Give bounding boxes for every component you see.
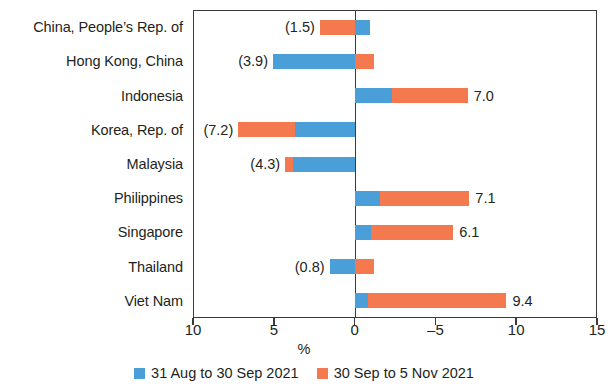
bar-row xyxy=(193,122,597,137)
legend-swatch-icon xyxy=(134,368,145,379)
x-axis-tick-label: 0 xyxy=(350,320,358,340)
bar-segment xyxy=(368,293,507,308)
bar-value-label: 9.4 xyxy=(513,294,533,309)
bar-segment xyxy=(293,157,354,172)
y-axis-label: Viet Nam xyxy=(124,294,183,308)
bar-row xyxy=(193,293,597,308)
legend-label: 30 Sep to 5 Nov 2021 xyxy=(334,366,474,380)
bar-chart: China, People’s Rep. ofHong Kong, ChinaI… xyxy=(0,0,608,392)
bar-segment xyxy=(392,88,468,103)
bar-segment xyxy=(380,191,469,206)
legend-item[interactable]: 31 Aug to 30 Sep 2021 xyxy=(134,366,299,380)
bar-row xyxy=(193,225,597,240)
x-axis-tick-label: 5 xyxy=(270,320,278,340)
bar-value-label: 7.1 xyxy=(475,191,495,206)
x-axis-title: % xyxy=(0,341,608,357)
bar-value-label: (4.3) xyxy=(250,157,280,172)
bar-segment xyxy=(320,20,355,35)
bar-segment xyxy=(371,225,453,240)
bar-segment xyxy=(295,122,355,137)
bar-value-label: (0.8) xyxy=(295,260,325,275)
bar-segment xyxy=(238,122,295,137)
y-axis-label: China, People’s Rep. of xyxy=(33,20,183,34)
bar-value-label: (7.2) xyxy=(203,123,233,138)
bar-value-label: (1.5) xyxy=(285,20,315,35)
bar-value-label: 6.1 xyxy=(459,225,479,240)
bar-segment xyxy=(285,157,293,172)
legend-swatch-icon xyxy=(317,368,328,379)
y-axis-label: Thailand xyxy=(128,260,183,274)
bars-layer: (1.5)(3.9)7.0(7.2)(4.3)7.16.1(0.8)9.4 xyxy=(193,10,597,318)
bar-row xyxy=(193,20,597,35)
chart-legend: 31 Aug to 30 Sep 202130 Sep to 5 Nov 202… xyxy=(0,366,608,380)
y-axis-label: Philippines xyxy=(114,191,183,205)
x-axis-tick-label: 15 xyxy=(589,320,606,340)
bar-value-label: (3.9) xyxy=(238,54,268,69)
y-axis-label: Korea, Rep. of xyxy=(91,123,183,137)
bar-segment xyxy=(355,54,374,69)
legend-label: 31 Aug to 30 Sep 2021 xyxy=(151,366,299,380)
bar-segment xyxy=(355,20,370,35)
bar-row xyxy=(193,88,597,103)
y-axis-label: Indonesia xyxy=(121,89,183,103)
bar-segment xyxy=(355,88,392,103)
bar-segment xyxy=(355,293,368,308)
bar-row xyxy=(193,259,597,274)
y-axis-label: Malaysia xyxy=(127,157,183,171)
bar-segment xyxy=(330,259,355,274)
y-axis-category-labels: China, People’s Rep. ofHong Kong, ChinaI… xyxy=(0,10,188,318)
bar-segment xyxy=(355,191,381,206)
bar-row xyxy=(193,191,597,206)
x-axis-tick-label: 10 xyxy=(185,320,202,340)
y-axis-label: Singapore xyxy=(118,225,183,239)
bar-value-label: 7.0 xyxy=(474,89,494,104)
bar-segment xyxy=(355,225,371,240)
bar-segment xyxy=(355,259,374,274)
bar-segment xyxy=(273,54,355,69)
x-axis-tick-label: 10 xyxy=(508,320,525,340)
x-axis-tick-label: –5 xyxy=(427,320,444,340)
y-axis-label: Hong Kong, China xyxy=(66,54,183,68)
legend-item[interactable]: 30 Sep to 5 Nov 2021 xyxy=(317,366,474,380)
